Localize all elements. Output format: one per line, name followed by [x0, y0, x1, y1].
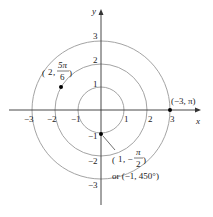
- point-2-5pi-6: [59, 85, 63, 89]
- y-axis-label: y: [91, 6, 96, 16]
- x-tick: 3: [170, 114, 175, 124]
- y-tick: 3: [93, 31, 98, 41]
- x-tick: 2: [148, 114, 153, 124]
- x-tick: −1: [71, 114, 81, 124]
- svg-text:6: 6: [60, 72, 65, 82]
- alt-label-neg1-450: or (−1, 450°): [112, 171, 159, 181]
- x-tick: 1: [124, 114, 129, 124]
- polar-diagram: x y −3 −2 −1 1 2 3 3 2 1 −1 −2 −3 ( 2 , …: [0, 0, 213, 217]
- svg-text:): ): [143, 155, 146, 165]
- x-axis-arrow-icon: [195, 108, 201, 113]
- x-tick: −3: [24, 114, 34, 124]
- svg-text:): ): [69, 68, 72, 78]
- svg-text:2: 2: [136, 159, 141, 169]
- point-1-neg-pi-2: [99, 132, 103, 136]
- svg-text:2: 2: [48, 67, 53, 77]
- point-neg3-pi: [168, 108, 172, 112]
- y-tick: −2: [88, 156, 98, 166]
- y-axis-arrow-icon: [99, 9, 104, 15]
- svg-text:,: ,: [53, 67, 55, 77]
- svg-text:5π: 5π: [58, 60, 68, 70]
- svg-text:(: (: [112, 155, 115, 165]
- y-tick: −1: [88, 131, 98, 141]
- y-tick: −3: [88, 180, 98, 190]
- x-axis-label: x: [195, 116, 200, 126]
- svg-text:1: 1: [118, 154, 123, 164]
- y-tick: 1: [93, 79, 98, 89]
- y-tick: 2: [93, 55, 98, 65]
- leader-line: [103, 136, 115, 150]
- x-tick: −2: [47, 114, 57, 124]
- label-1-neg-pi-2: ( 1 , − π 2 ): [112, 147, 146, 169]
- svg-text:(: (: [42, 68, 45, 78]
- svg-text:π: π: [136, 147, 141, 157]
- svg-text:, −: , −: [123, 154, 133, 164]
- label-neg3-pi: (−3, π): [171, 96, 196, 106]
